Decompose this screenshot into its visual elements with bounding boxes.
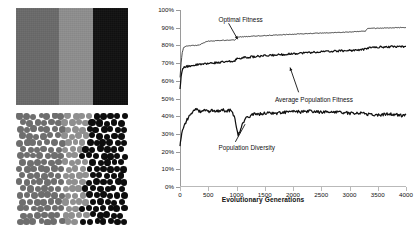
packed-circle [65,139,72,146]
packed-circle [63,186,69,192]
packed-circle [86,113,92,119]
y-axis-tick [176,63,180,64]
packed-circle [87,219,93,225]
packed-circle [89,159,96,166]
packed-circle [65,218,72,225]
packed-circle [76,212,82,218]
y-axis-tick-label: 100% [158,7,174,13]
series-line-optimal-fitness [180,27,406,77]
annotation-population-diversity: Population Diversity [218,145,274,151]
figure-root: 0%10%20%30%40%50%60%70%80%90%100%0500100… [0,0,420,234]
packed-circle [118,159,124,165]
packed-circle [122,113,128,119]
band-light-gray-band [59,8,94,105]
packed-circle [48,119,55,126]
y-axis-tick-label: 40% [162,113,174,119]
packed-circle [17,152,24,159]
packed-circle [20,185,26,191]
packed-circle [29,218,36,225]
packed-circle [90,199,96,205]
packed-circle [69,173,75,179]
y-axis-tick [176,10,180,11]
packed-circle [20,119,26,125]
y-axis-tick-label: 90% [162,25,174,31]
y-axis-tick-label: 50% [162,95,174,101]
y-axis-tick-label: 20% [162,148,174,154]
packed-circle [75,185,82,192]
annotation-optimal-fitness: Optimal Fitness [218,17,262,23]
packed-circle [94,166,100,172]
packed-circle [121,179,127,185]
y-axis-tick [176,134,180,135]
packed-circle [71,219,77,225]
packed-circle [58,166,64,172]
grayscale-bands-image [16,8,128,105]
packed-circle [105,199,111,205]
packed-circle [24,192,30,198]
packed-circle [27,199,33,205]
y-axis-tick [176,169,180,170]
packed-circle [82,172,88,178]
packed-circle [82,159,88,165]
packed-circle [112,159,118,165]
series-line-average-population-fitness [180,46,406,89]
packed-circle [48,172,54,178]
y-axis-tick-label: 70% [162,60,174,66]
packed-circle [90,185,96,191]
packed-circle [114,219,120,225]
packed-circle [75,132,82,139]
packed-circle [27,173,33,179]
packed-circle [93,178,100,185]
packed-circle [66,206,72,212]
packed-circle [79,153,85,159]
packed-circle [107,166,114,173]
packed-circle [83,212,90,219]
packed-circle [103,211,110,218]
packed-circle [30,125,37,132]
packed-circle [114,166,120,172]
band-dark-gray-band [16,8,59,105]
packed-circle [36,178,43,185]
packed-circle [86,152,92,158]
y-axis-tick [176,152,180,153]
packed-circle [61,119,67,125]
series-line-population-diversity [180,108,406,146]
packed-circle [50,218,57,225]
packed-circle [100,205,106,211]
packed-circle [44,191,51,198]
packed-circle [97,145,103,151]
packed-circle [79,179,86,186]
packed-circle [90,211,96,217]
packed-circle [111,133,118,140]
packed-circle [47,132,53,138]
packed-circle [100,179,107,186]
packed-circle [106,139,113,146]
packed-circle [44,139,50,145]
x-axis-title: Evolutionary Generations [150,196,376,203]
image-panel-column [0,0,150,234]
packed-circle [70,199,76,205]
fitness-chart: 0%10%20%30%40%50%60%70%80%90%100%0500100… [150,0,420,234]
y-axis-tick-label: 0% [165,184,174,190]
packed-circle [118,146,124,152]
packed-circle [111,119,117,125]
packed-circle [117,213,123,219]
packed-circle [111,146,117,152]
packed-circle [23,205,29,211]
packed-circle [72,165,79,172]
packed-circle [114,113,120,119]
packed-circle [121,127,127,133]
packed-circle [17,192,23,198]
packed-circle [51,139,58,146]
packed-circle [122,154,128,160]
packed-circle [20,146,26,152]
packed-circle [114,192,121,199]
annotation-average-population-fitness: Average Population Fitness [275,97,353,103]
packed-circle [16,178,22,184]
packed-circle [87,139,94,146]
packed-circle [100,166,106,172]
y-axis-tick-label: 10% [162,166,174,172]
packed-circle [51,165,57,171]
packed-circle [100,218,107,225]
packed-circle [118,120,125,127]
